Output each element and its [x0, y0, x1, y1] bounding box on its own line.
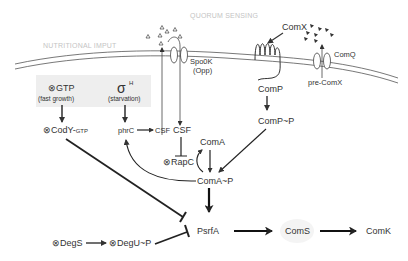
csf-peptide-icons — [146, 26, 182, 46]
compp-label: ComP~P — [258, 116, 294, 126]
comq-label: ComQ — [334, 50, 356, 59]
starvation-label: (starvation) — [108, 95, 141, 103]
csf-precursor-label: CSF — [155, 126, 170, 135]
phrc-label: phrC — [118, 126, 135, 135]
spo0k-transporter — [171, 47, 188, 63]
compp-to-comap-arrow — [219, 129, 266, 172]
csf-label: CSF — [173, 125, 192, 135]
rapc-label: ⊗RapC — [163, 157, 195, 167]
precomx-label: pre-ComX — [308, 78, 342, 87]
spo0k-label: Spo0K — [190, 57, 213, 66]
opp-label: (Opp) — [193, 66, 213, 75]
competence-regulation-diagram: NUTRITIONAL IMPUT QUORUM SENSING Spo0K (… — [0, 0, 408, 261]
coma-label: ComA — [200, 137, 225, 147]
sigma-h-superscript: H — [129, 80, 133, 86]
degs-label: ⊗DegS — [52, 238, 83, 248]
fast-growth-label: (fast growth) — [38, 95, 74, 103]
degup-label: ⊗DegU~P — [109, 238, 151, 248]
comap-dephosphorylation-arrow — [197, 150, 203, 172]
comx-binding-arrow — [268, 33, 283, 43]
comp-label: ComP — [258, 84, 283, 94]
coms-label: ComS — [285, 226, 310, 236]
degup-inhibits-psrfa-line — [155, 232, 187, 244]
comap-label: ComA~P — [197, 176, 233, 186]
cody-inhibition-bar — [180, 212, 186, 222]
degup-inhibition-bar — [185, 225, 189, 237]
cody-gtp-label: ⊗CodY-GTP — [43, 125, 88, 135]
zone-label-nutritional-input: NUTRITIONAL IMPUT — [43, 42, 117, 49]
sigma-h-label: σ — [117, 80, 126, 96]
comx-pheromone-icons — [304, 24, 334, 43]
comk-label: ComK — [366, 226, 391, 236]
cody-inhibits-psrfa-line — [66, 139, 183, 217]
csf-inhibits-rapc — [175, 137, 187, 156]
gtp-label: ⊗GTP — [48, 83, 75, 93]
zone-label-quorum-sensing: QUORUM SENSING — [190, 12, 258, 20]
comx-label: ComX — [282, 22, 307, 32]
psrfa-label: PsrfA — [197, 226, 219, 236]
